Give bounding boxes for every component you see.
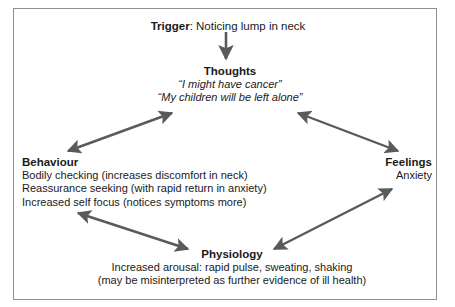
node-physiology-heading: Physiology [98,247,366,261]
node-behaviour-line: Bodily checking (increases discomfort in… [22,169,267,182]
node-feelings: Feelings Anxiety [385,155,432,182]
node-thoughts-line: “I might have cancer” [158,78,303,91]
node-behaviour-line: Increased self focus (notices symptoms m… [22,196,267,209]
node-physiology: Physiology Increased arousal: rapid puls… [98,247,366,288]
node-physiology-line: (may be misinterpreted as further eviden… [98,274,366,287]
node-feelings-line: Anxiety [385,169,432,182]
node-behaviour-heading: Behaviour [22,155,267,169]
node-behaviour: Behaviour Bodily checking (increases dis… [22,155,267,209]
node-trigger: Trigger: Noticing lump in neck [151,15,306,35]
node-trigger-heading: Trigger [151,20,190,32]
cognitive-model-diagram: Trigger: Noticing lump in neck Thoughts … [0,0,455,307]
node-physiology-line: Increased arousal: rapid pulse, sweating… [98,261,366,274]
node-feelings-heading: Feelings [385,155,432,169]
node-behaviour-line: Reassurance seeking (with rapid return i… [22,182,267,195]
node-thoughts-heading: Thoughts [158,64,303,78]
node-thoughts: Thoughts “I might have cancer” “My child… [158,64,303,105]
node-trigger-description: Noticing lump in neck [196,20,305,32]
node-thoughts-line: “My children will be left alone” [158,91,303,104]
